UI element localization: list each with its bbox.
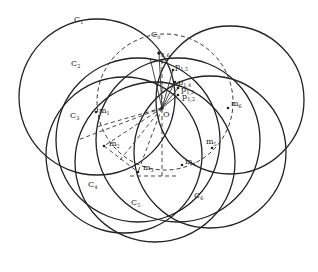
diagram-canvas: C1 C0 C2 C3 C4 C5 C6 O m1 m2 m3 m4 m5 m6…	[0, 0, 318, 272]
label-m1: m1	[99, 106, 110, 116]
point-p13	[177, 87, 180, 90]
label-p15: p1,5	[175, 62, 188, 72]
label-c5: C5	[131, 198, 140, 208]
label-m5: m5	[206, 137, 217, 147]
label-c4: C4	[88, 180, 97, 190]
circle-c2	[156, 26, 304, 174]
point-m6	[227, 107, 230, 110]
circle-c7	[46, 77, 202, 233]
label-c6: C6	[194, 191, 203, 201]
label-p16: 1,6	[162, 52, 170, 58]
label-origin: O	[163, 110, 170, 119]
point-m1	[95, 111, 98, 114]
point-p12	[177, 94, 180, 97]
point-p14	[174, 81, 177, 84]
circle-c5	[134, 76, 286, 228]
point-m2	[103, 145, 106, 148]
point-m5	[211, 147, 214, 150]
label-c0: C0	[151, 30, 160, 40]
point-p16	[157, 51, 161, 55]
point-m3	[137, 171, 140, 174]
label-m3: m3	[143, 163, 154, 173]
point-m4	[181, 164, 184, 167]
label-m2: m2	[109, 139, 120, 149]
point-p15	[172, 69, 175, 72]
label-m4: m4	[185, 157, 196, 167]
label-m6: m6	[231, 99, 242, 109]
label-c3: C3	[70, 111, 79, 121]
label-c2: C2	[71, 59, 80, 69]
label-c1: C1	[74, 15, 83, 25]
ray-to-p12	[162, 95, 178, 108]
